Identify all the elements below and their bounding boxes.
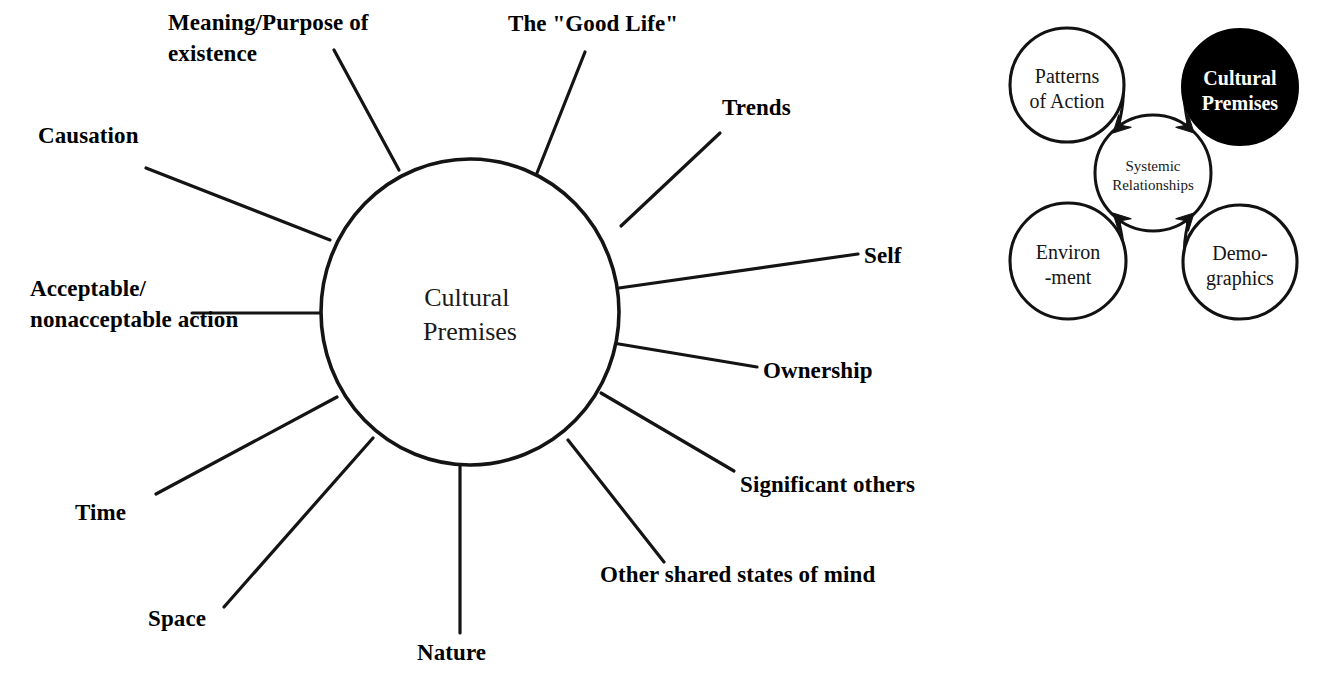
spoke-line-self bbox=[619, 254, 858, 288]
central-hub-circle bbox=[321, 159, 619, 465]
diagram-canvas: Cultural Premises Meaning/Purpose ofexis… bbox=[0, 0, 1320, 683]
inset-label-line: Systemic bbox=[1126, 158, 1181, 174]
inset-label-line: -ment bbox=[1045, 266, 1092, 288]
spoke-label-other-shared-states-of-mind: Other shared states of mind bbox=[600, 562, 875, 587]
spoke-line-significant-others bbox=[601, 393, 734, 471]
spoke-label-line: Other shared states of mind bbox=[600, 562, 875, 587]
spoke-label-line: Space bbox=[148, 606, 206, 631]
diagram-page: Cultural Premises Meaning/Purpose ofexis… bbox=[0, 0, 1320, 683]
inset-label-line: Cultural bbox=[1203, 67, 1277, 89]
spoke-label-line: Ownership bbox=[763, 358, 873, 383]
spoke-label-line: Time bbox=[75, 500, 126, 525]
spoke-line-meaning-purpose-of-existence bbox=[334, 50, 399, 170]
spoke-label-causation: Causation bbox=[38, 123, 139, 148]
spoke-label-significant-others: Significant others bbox=[740, 472, 915, 497]
spoke-line-time bbox=[156, 397, 337, 494]
inset-label-line: Patterns bbox=[1035, 65, 1100, 87]
main-radial-diagram: Cultural Premises Meaning/Purpose ofexis… bbox=[30, 10, 915, 665]
spoke-label-line: Trends bbox=[722, 95, 791, 120]
spoke-label-line: Self bbox=[864, 243, 902, 268]
spoke-label-space: Space bbox=[148, 606, 206, 631]
spoke-label-the-good-life: The "Good Life" bbox=[508, 11, 678, 36]
spoke-label-self: Self bbox=[864, 243, 902, 268]
spoke-line-trends bbox=[621, 133, 720, 226]
spoke-line-space bbox=[224, 438, 373, 607]
inset-label-line: of Action bbox=[1030, 90, 1105, 112]
spoke-label-trends: Trends bbox=[722, 95, 791, 120]
spoke-label-line: The "Good Life" bbox=[508, 11, 678, 36]
inset-label-line: Premises bbox=[1202, 92, 1278, 114]
inset-label-line: Environ bbox=[1036, 241, 1100, 263]
spoke-label-time: Time bbox=[75, 500, 126, 525]
inset-label-line: Demo- bbox=[1212, 242, 1268, 264]
spoke-label-line: Acceptable/ bbox=[30, 276, 147, 301]
inset-label-line: Relationships bbox=[1112, 177, 1194, 193]
spoke-line-other-shared-states-of-mind bbox=[568, 440, 664, 562]
spoke-label-line: nonacceptable action bbox=[30, 307, 238, 332]
spoke-label-acceptable-nonacceptable-action: Acceptable/nonacceptable action bbox=[30, 276, 238, 332]
inset-systemic-relationships-diagram: Patternsof ActionCulturalPremisesEnviron… bbox=[1010, 28, 1298, 319]
spoke-label-nature: Nature bbox=[417, 640, 486, 665]
spoke-label-line: Nature bbox=[417, 640, 486, 665]
inset-labels-group: Patternsof ActionCulturalPremisesEnviron… bbox=[1030, 65, 1279, 290]
spoke-line-ownership bbox=[613, 343, 757, 367]
spoke-label-line: Meaning/Purpose of bbox=[168, 10, 369, 35]
spoke-line-causation bbox=[146, 168, 330, 240]
spoke-label-line: Causation bbox=[38, 123, 139, 148]
spoke-line-the-good-life bbox=[537, 52, 585, 173]
spoke-label-line: Significant others bbox=[740, 472, 915, 497]
spoke-label-line: existence bbox=[168, 41, 257, 66]
inset-label-line: graphics bbox=[1206, 267, 1274, 290]
spoke-label-ownership: Ownership bbox=[763, 358, 873, 383]
